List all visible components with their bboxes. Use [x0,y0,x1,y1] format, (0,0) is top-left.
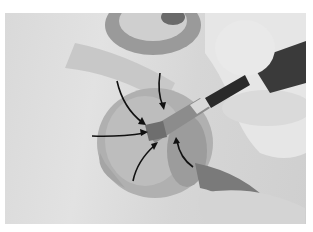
upper-petal [65,13,201,103]
lower-petal [199,190,305,224]
painting-scene [5,13,306,224]
painting-photo [5,13,306,224]
hand [205,13,306,158]
